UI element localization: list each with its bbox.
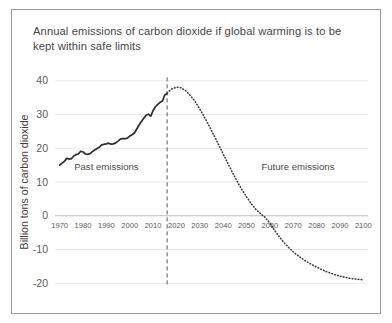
ytick-label--10: -10 [33,243,48,255]
ytick-label-30: 30 [36,108,48,120]
ytick-label-20: 20 [36,142,48,154]
series-group [60,87,364,280]
xtick-label-2030: 2030 [191,221,208,230]
annotations-group: Past emissionsFuture emissions [74,161,335,172]
xtick-label-1970: 1970 [51,221,68,230]
y-axis-title-group: Billion tons of carbon dioxide [18,114,30,249]
xtick-label-2100: 2100 [355,221,372,230]
chart-plot-area: 403020100-10-20 197019801990200020102020… [0,0,392,323]
series-line-1 [60,94,167,166]
annotation-1: Past emissions [74,161,139,172]
xtick-label-2060: 2060 [261,221,278,230]
ytick-label-40: 40 [36,74,48,86]
chart-figure: Annual emissions of carbon dioxide if gl… [0,0,392,323]
xtick-label-2010: 2010 [145,221,162,230]
xtick-label-2040: 2040 [215,221,232,230]
ytick-label-10: 10 [36,176,48,188]
ytick-labels-group: 403020100-10-20 [33,74,48,289]
y-axis-title: Billion tons of carbon dioxide [18,114,30,249]
ytick-label-0: 0 [42,209,48,221]
xtick-label-1990: 1990 [98,221,115,230]
series-line-2 [167,87,363,280]
annotation-2: Future emissions [261,161,334,172]
xtick-label-1980: 1980 [75,221,92,230]
xtick-label-2000: 2000 [121,221,138,230]
xtick-labels-group: 1970198019902000201020202030204020502060… [51,221,372,230]
xtick-label-2020: 2020 [168,221,185,230]
gridlines-group [55,81,368,284]
xtick-label-2070: 2070 [285,221,302,230]
xtick-label-2090: 2090 [332,221,349,230]
xtick-label-2050: 2050 [238,221,255,230]
ytick-label--20: -20 [33,277,48,289]
xtick-label-2080: 2080 [308,221,325,230]
